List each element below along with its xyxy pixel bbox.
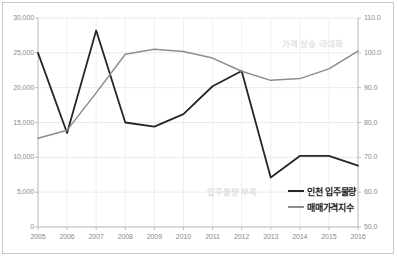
legend-label: 매매가격지수	[307, 201, 354, 214]
legend-label: 인천 입주물량	[307, 185, 356, 198]
chart-container: 05,00010,00015,00020,00025,00030,000 50.…	[0, 0, 397, 257]
annotation-supply-shortage: 입주물량 부족	[207, 185, 257, 197]
annotation-price-surge: 가격 상승 극대화	[282, 37, 343, 49]
legend-swatch-icon	[288, 206, 304, 208]
legend-item-supply[interactable]: 인천 입주물량	[288, 183, 368, 199]
legend-swatch-icon	[288, 190, 304, 192]
chart-legend: 인천 입주물량 매매가격지수	[288, 183, 368, 215]
legend-item-price-index[interactable]: 매매가격지수	[288, 199, 368, 215]
